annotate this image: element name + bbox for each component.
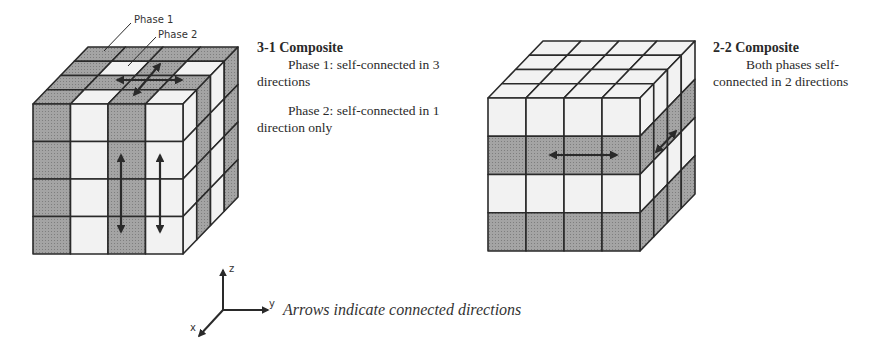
axis-z-label: z [229,263,234,274]
front-cell [33,217,71,255]
composite-3-1-phase1-line2: directions [257,74,310,90]
composite-2-2-line1: Both phases self- [746,57,839,73]
front-cell [71,179,109,217]
front-cell [146,217,184,255]
front-cell [488,213,526,251]
front-cell [488,98,526,136]
composite-3-1-phase2-line2: direction only [257,120,332,136]
composite-3-1-phase2-line1: Phase 2: self-connected in 1 [288,103,439,119]
front-cell [146,179,184,217]
front-cell [33,104,71,142]
front-cell [602,98,640,136]
x-axis-arrow-icon [199,310,223,336]
front-cell [564,213,602,251]
front-cell [564,175,602,213]
front-cell [602,175,640,213]
composite-3-1-phase1-line1: Phase 1: self-connected in 3 [288,57,439,73]
front-cell [526,98,564,136]
front-cell [71,104,109,142]
front-cell [108,104,146,142]
front-cell [71,217,109,255]
composite-2-2-title: 2-2 Composite [713,40,799,56]
coordinate-axes-icon [199,270,268,336]
front-cell [526,175,564,213]
front-cell [33,142,71,180]
axis-y-label: y [269,298,275,309]
front-cell [71,142,109,180]
cube-2-2-composite [488,41,695,251]
phase-2-label: Phase 2 [158,29,197,40]
cube-3-1-composite [33,47,238,254]
diagram-caption: Arrows indicate connected directions [283,301,521,319]
axis-x-label: x [190,322,196,333]
front-cell [526,213,564,251]
front-cell [564,98,602,136]
composite-2-2-line2: connected in 2 directions [713,74,848,90]
front-cell [488,136,526,174]
front-cell [602,213,640,251]
front-cell [33,179,71,217]
front-cell [146,104,184,142]
front-cell [146,142,184,180]
front-cell [488,175,526,213]
front-cell [108,217,146,255]
front-cell [108,179,146,217]
composite-3-1-title: 3-1 Composite [257,40,343,56]
phase-1-label: Phase 1 [134,14,173,25]
front-cell [108,142,146,180]
